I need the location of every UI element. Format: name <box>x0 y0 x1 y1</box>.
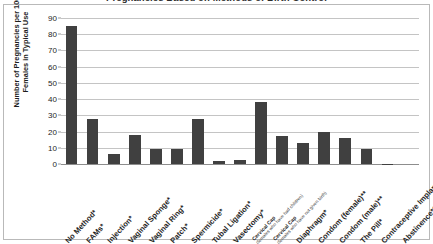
y-axis-tick-label: 80 <box>35 30 57 39</box>
y-axis-tick-label: 30 <box>35 111 57 120</box>
bar[interactable] <box>361 149 373 164</box>
bar-slot <box>230 18 251 164</box>
bar-slot <box>124 18 145 164</box>
bar-slot <box>166 18 187 164</box>
bar-slot <box>398 18 419 164</box>
bar[interactable] <box>234 160 246 164</box>
x-axis-labels: No Method*FAMs*Injection*Vaginal Sponge*… <box>61 165 419 244</box>
bar-slot <box>187 18 208 164</box>
bar[interactable] <box>318 132 330 164</box>
bar-slot <box>356 18 377 164</box>
bar[interactable] <box>213 161 225 164</box>
chart-page: Pregnancies Based on Methods of Birth Co… <box>0 0 433 244</box>
bar[interactable] <box>192 119 204 164</box>
bar-slot <box>103 18 124 164</box>
bar-slot <box>377 18 398 164</box>
bar-slot <box>145 18 166 164</box>
chart-title: Pregnancies Based on Methods of Birth Co… <box>0 0 433 3</box>
bar-slot <box>82 18 103 164</box>
y-axis-tick-label: 70 <box>35 46 57 55</box>
y-axis-tick-label: 60 <box>35 62 57 71</box>
bar[interactable] <box>255 102 267 164</box>
bar-slot <box>251 18 272 164</box>
y-axis-tick-label: 10 <box>35 143 57 152</box>
bar-slot <box>314 18 335 164</box>
chart-frame: Number of Pregnancies per 100 Females in… <box>3 4 430 240</box>
bar-series <box>61 18 419 164</box>
x-axis-label: Patch* <box>169 222 191 244</box>
bar[interactable] <box>108 154 120 164</box>
bar[interactable] <box>276 136 288 164</box>
y-axis-tick-label: 90 <box>35 14 57 23</box>
bar[interactable] <box>297 143 309 164</box>
bar-slot <box>208 18 229 164</box>
bar[interactable] <box>171 149 183 164</box>
bar-slot <box>61 18 82 164</box>
bar[interactable] <box>129 135 141 164</box>
y-axis-tick-label: 40 <box>35 95 57 104</box>
y-axis-title: Number of Pregnancies per 100 Females in… <box>12 0 30 113</box>
bar-slot <box>272 18 293 164</box>
bar-slot <box>335 18 356 164</box>
x-axis-label: FAMs* <box>85 223 107 244</box>
y-axis-tick-label: 0 <box>35 160 57 169</box>
bar-slot <box>293 18 314 164</box>
y-axis-tick-label: 20 <box>35 127 57 136</box>
y-axis-tick-label: 50 <box>35 78 57 87</box>
bar[interactable] <box>339 138 351 164</box>
bar[interactable] <box>150 149 162 164</box>
bar[interactable] <box>66 26 78 164</box>
plot-area: 0102030405060708090 <box>61 18 419 164</box>
bar[interactable] <box>87 119 99 164</box>
